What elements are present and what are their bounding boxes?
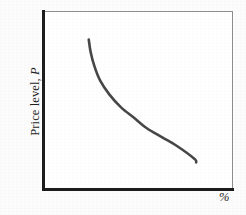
x-axis-label: % bbox=[219, 190, 229, 205]
y-axis-label-variable: P bbox=[28, 67, 42, 75]
aggregate-demand-curve bbox=[89, 39, 197, 162]
y-axis-label: Price level, P bbox=[28, 42, 43, 162]
y-axis-label-text: Price level, bbox=[28, 78, 42, 135]
figure-container: Price level, P % bbox=[0, 0, 246, 215]
